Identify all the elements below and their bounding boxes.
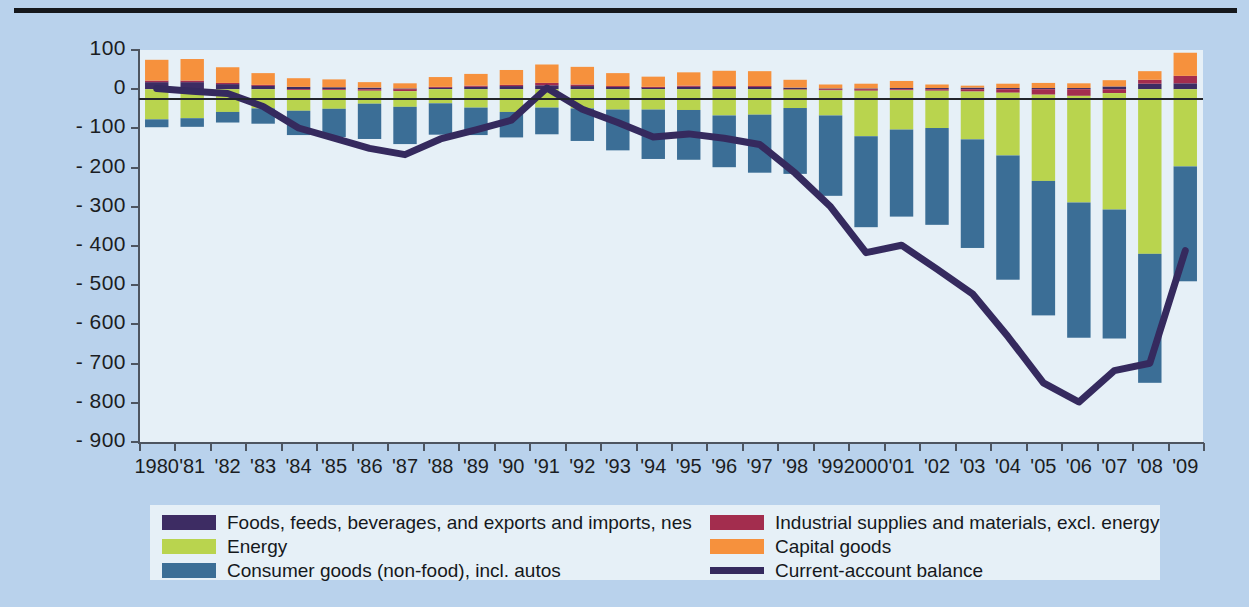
legend-item-label: Consumer goods (non-food), incl. autos bbox=[227, 560, 561, 582]
bar-segment bbox=[1032, 89, 1055, 94]
bar-segment bbox=[925, 128, 948, 225]
x-axis-tick-mark bbox=[1168, 443, 1170, 451]
x-axis-tick-label: '94 bbox=[640, 455, 666, 478]
y-axis-labels: 1000- 100- 200- 300- 400- 500- 600- 700-… bbox=[30, 0, 126, 607]
bar-segment bbox=[571, 85, 594, 87]
bar-segment bbox=[642, 87, 665, 88]
y-axis-tick-label: - 200 bbox=[38, 154, 126, 178]
x-axis-tick-label: '89 bbox=[463, 455, 489, 478]
y-axis-tick-label: 100 bbox=[38, 36, 126, 60]
legend-item[interactable]: Capital goods bbox=[710, 535, 1159, 558]
bar-segment bbox=[1138, 80, 1161, 84]
bar-segment bbox=[429, 77, 452, 87]
legend-item[interactable]: Current-account balance bbox=[710, 559, 1159, 582]
x-axis-tick-mark bbox=[1132, 443, 1134, 451]
bar-segment bbox=[287, 87, 310, 89]
legend-column-left: Foods, feeds, beverages, and exports and… bbox=[162, 511, 692, 583]
x-axis-tick-mark bbox=[1061, 443, 1063, 451]
bar-segment bbox=[748, 71, 771, 86]
plot-area bbox=[139, 50, 1203, 442]
legend-line-balance bbox=[710, 567, 764, 574]
bar-segment bbox=[783, 80, 806, 88]
bar-segment bbox=[1138, 84, 1161, 89]
bar-segment bbox=[322, 79, 345, 87]
bar-segment bbox=[251, 85, 274, 86]
bar-segment bbox=[713, 71, 736, 86]
x-axis-tick-mark bbox=[1026, 443, 1028, 451]
bar-segment bbox=[216, 67, 239, 83]
legend-item-label: Current-account balance bbox=[775, 560, 983, 582]
bar-segment bbox=[996, 84, 1019, 88]
chart-legend: Foods, feeds, beverages, and exports and… bbox=[150, 505, 1160, 580]
bar-segment bbox=[996, 89, 1019, 93]
bar-segment bbox=[819, 90, 842, 115]
bar-segment bbox=[713, 86, 736, 87]
bar-segment bbox=[1067, 202, 1090, 337]
bar-segment bbox=[606, 73, 629, 86]
legend-item[interactable]: Industrial supplies and materials, excl.… bbox=[710, 511, 1159, 534]
y-axis-tick-label: - 400 bbox=[38, 232, 126, 256]
chart-svg bbox=[139, 50, 1203, 442]
x-axis-tick-mark bbox=[742, 443, 744, 451]
bar-segment bbox=[145, 89, 168, 119]
bar-segment bbox=[535, 65, 558, 83]
bar-segment bbox=[1032, 95, 1055, 181]
x-axis-tick-mark bbox=[352, 443, 354, 451]
bar-segment bbox=[1067, 88, 1090, 89]
bar-segment bbox=[677, 87, 700, 89]
x-axis-tick-mark bbox=[1097, 443, 1099, 451]
x-axis-tick-label: '87 bbox=[392, 455, 418, 478]
x-axis-tick-label: '95 bbox=[676, 455, 702, 478]
bar-segment bbox=[996, 93, 1019, 156]
bar-segment bbox=[251, 86, 274, 90]
x-axis-tick-label: '09 bbox=[1172, 455, 1198, 478]
bar-segment bbox=[1032, 88, 1055, 89]
legend-swatch-energy bbox=[162, 539, 216, 554]
x-axis-tick-mark bbox=[174, 443, 176, 451]
x-axis-tick-mark bbox=[494, 443, 496, 451]
y-axis-tick-label: - 500 bbox=[38, 271, 126, 295]
bar-segment bbox=[819, 85, 842, 89]
x-axis-tick-label: '86 bbox=[356, 455, 382, 478]
bar-segment bbox=[748, 87, 771, 89]
bar-segment bbox=[1067, 96, 1090, 203]
legend-item[interactable]: Energy bbox=[162, 535, 692, 558]
bar-segment bbox=[642, 77, 665, 87]
y-axis-tick-mark bbox=[131, 88, 140, 90]
bar-segment bbox=[571, 86, 594, 89]
bar-segment bbox=[287, 90, 310, 111]
x-axis-tick-label: '04 bbox=[995, 455, 1021, 478]
bar-segment bbox=[1103, 86, 1126, 89]
bar-segment bbox=[713, 87, 736, 89]
bar-segment bbox=[1103, 210, 1126, 339]
bar-segment bbox=[748, 89, 771, 114]
bar-segment bbox=[358, 89, 381, 91]
bar-segment bbox=[961, 139, 984, 248]
zero-baseline bbox=[139, 98, 1203, 100]
bar-segment bbox=[925, 91, 948, 128]
bar-segment bbox=[677, 86, 700, 87]
x-axis-tick-mark bbox=[955, 443, 957, 451]
bar-segment bbox=[358, 104, 381, 139]
bar-segment bbox=[854, 89, 877, 91]
bar-segment bbox=[1174, 83, 1197, 89]
bar-segment bbox=[1174, 89, 1197, 166]
legend-item[interactable]: Consumer goods (non-food), incl. autos bbox=[162, 559, 692, 582]
top-border-rule bbox=[14, 8, 1237, 13]
x-axis-tick-label: '84 bbox=[286, 455, 312, 478]
legend-item[interactable]: Foods, feeds, beverages, and exports and… bbox=[162, 511, 692, 534]
x-axis-tick-mark bbox=[1203, 443, 1205, 451]
bar-segment bbox=[181, 118, 204, 127]
bar-segment bbox=[606, 87, 629, 89]
y-axis-tick-mark bbox=[131, 206, 140, 208]
x-axis-tick-mark bbox=[210, 443, 212, 451]
bar-segment bbox=[606, 86, 629, 87]
bar-segment bbox=[925, 88, 948, 89]
x-axis-tick-label: 2000 bbox=[844, 455, 889, 478]
bar-segment bbox=[890, 130, 913, 217]
y-axis-tick-label: 0 bbox=[38, 75, 126, 99]
x-axis-tick-label: '05 bbox=[1030, 455, 1056, 478]
bar-segment bbox=[322, 87, 345, 89]
bar-segment bbox=[429, 103, 452, 134]
bar-segment bbox=[464, 87, 487, 89]
